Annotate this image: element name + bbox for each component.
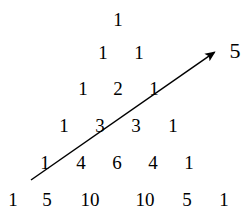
diagonal-arrow bbox=[0, 0, 250, 219]
triangle-cell: 4 bbox=[76, 153, 86, 172]
triangle-cell: 1 bbox=[40, 153, 50, 172]
triangle-cell: 10 bbox=[81, 190, 100, 209]
triangle-cell: 1 bbox=[134, 43, 144, 62]
triangle-cell: 1 bbox=[184, 153, 194, 172]
triangle-cell: 1 bbox=[8, 190, 18, 209]
triangle-cell: 3 bbox=[95, 116, 105, 135]
triangle-cell: 1 bbox=[219, 190, 229, 209]
triangle-cell: 1 bbox=[149, 79, 159, 98]
triangle-cell: 5 bbox=[182, 190, 192, 209]
triangle-cell: 6 bbox=[112, 153, 122, 172]
triangle-cell: 1 bbox=[98, 43, 108, 62]
triangle-cell: 3 bbox=[131, 116, 141, 135]
triangle-cell: 10 bbox=[136, 190, 155, 209]
triangle-cell: 1 bbox=[168, 116, 178, 135]
triangle-cell: 2 bbox=[113, 79, 123, 98]
triangle-cell: 1 bbox=[59, 116, 69, 135]
pascal-triangle-figure: 11112113311464115101051 5 bbox=[0, 0, 250, 219]
triangle-cell: 5 bbox=[42, 190, 52, 209]
diagonal-sum-label: 5 bbox=[230, 40, 241, 62]
triangle-cell: 1 bbox=[113, 10, 123, 29]
triangle-cell: 1 bbox=[78, 79, 88, 98]
triangle-cell: 4 bbox=[148, 153, 158, 172]
